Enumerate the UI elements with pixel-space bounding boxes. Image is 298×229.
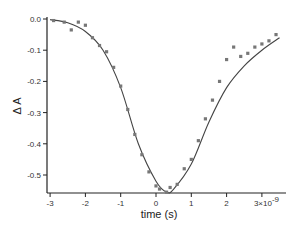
data-point [91, 36, 94, 39]
y-tick-label: -0.4 [27, 140, 41, 149]
data-point [176, 183, 179, 186]
data-point [63, 21, 66, 24]
data-point [52, 19, 55, 22]
x-tick-label: -1 [117, 199, 125, 208]
data-point [225, 58, 228, 61]
data-point [84, 24, 87, 27]
data-point [211, 99, 214, 102]
fit-curve-path [50, 20, 279, 193]
chart: 0.0-0.1-0.2-0.3-0.4-0.5-3-2-10123×10-9ti… [0, 0, 298, 229]
x-axis-title: time (s) [141, 208, 178, 220]
data-point [119, 84, 122, 87]
data-point [218, 80, 221, 83]
data-point [105, 50, 108, 53]
x-tick-label: 0 [154, 199, 159, 208]
data-point [154, 184, 157, 187]
y-axis-title: Δ A [11, 97, 23, 115]
data-point [190, 158, 193, 161]
data-point [140, 153, 143, 156]
x-tick-label: 3×10 [254, 199, 273, 208]
data-point [165, 191, 168, 194]
axes [43, 17, 286, 197]
data-point [253, 45, 256, 48]
fit-curve [50, 20, 279, 193]
data-point [169, 186, 172, 189]
data-point [197, 139, 200, 142]
data-point [70, 28, 73, 31]
data-point [239, 55, 242, 58]
x-tick-label: 2 [224, 199, 229, 208]
data-point [183, 167, 186, 170]
y-tick-label: -0.1 [27, 46, 41, 55]
y-tick-label: 0.0 [30, 15, 42, 24]
y-tick-label: -0.3 [27, 109, 41, 118]
x-tick-label: -3 [47, 199, 55, 208]
data-point [204, 117, 207, 120]
data-point [260, 42, 263, 45]
axis-labels: 0.0-0.1-0.2-0.3-0.4-0.5-3-2-10123×10-9ti… [11, 15, 280, 220]
data-point [274, 33, 277, 36]
x-tick-label: -2 [82, 199, 90, 208]
y-tick-label: -0.2 [27, 77, 41, 86]
data-point [98, 44, 101, 47]
data-point [77, 21, 80, 24]
data-points [52, 19, 278, 194]
data-point [246, 52, 249, 55]
data-point [147, 170, 150, 173]
data-point [112, 66, 115, 69]
data-point [133, 133, 136, 136]
data-point [267, 39, 270, 42]
y-tick-label: -0.5 [27, 171, 41, 180]
data-point [126, 108, 129, 111]
data-point [158, 187, 161, 190]
data-point [232, 45, 235, 48]
x-exponent: -9 [272, 195, 280, 204]
x-tick-label: 1 [189, 199, 194, 208]
